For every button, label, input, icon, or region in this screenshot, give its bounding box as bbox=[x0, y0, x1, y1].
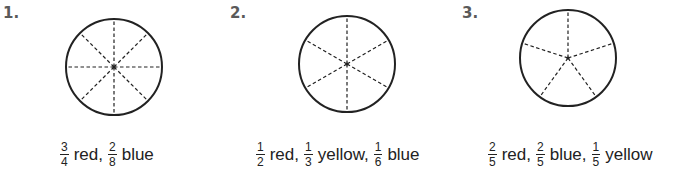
color-word: red, bbox=[74, 145, 103, 165]
fraction: 1 5 bbox=[592, 141, 601, 168]
center-dot bbox=[345, 62, 348, 65]
color-word: blue, bbox=[550, 145, 587, 165]
dashed-spoke bbox=[568, 43, 614, 58]
numerator: 3 bbox=[60, 141, 69, 155]
dashed-spoke bbox=[114, 33, 148, 67]
problem-2-circle bbox=[297, 14, 397, 114]
center-dot bbox=[566, 56, 569, 59]
problem-3-caption: 2 5 red, 2 5 blue, 1 5 yellow bbox=[488, 138, 657, 171]
dashed-spoke bbox=[568, 58, 596, 97]
denominator: 5 bbox=[489, 155, 496, 168]
fraction: 1 2 bbox=[256, 141, 265, 168]
color-word: yellow bbox=[605, 145, 652, 165]
numerator: 2 bbox=[488, 141, 497, 155]
color-word: yellow, bbox=[318, 145, 369, 165]
dashed-spoke bbox=[305, 40, 347, 64]
denominator: 2 bbox=[257, 155, 264, 168]
problem-1-caption: 3 4 red, 2 8 blue bbox=[60, 138, 159, 171]
numerator: 1 bbox=[256, 141, 265, 155]
fraction: 1 3 bbox=[304, 141, 313, 168]
fraction-term: 2 8 blue bbox=[108, 141, 159, 168]
fraction: 1 6 bbox=[374, 141, 383, 168]
dashed-spoke bbox=[114, 67, 148, 101]
denominator: 8 bbox=[109, 155, 116, 168]
fraction: 2 8 bbox=[108, 141, 117, 168]
problem-2-caption: 1 2 red, 1 3 yellow, 1 6 blue bbox=[256, 138, 425, 171]
fraction-term: 1 2 red, bbox=[256, 141, 304, 168]
denominator: 5 bbox=[593, 155, 600, 168]
problem-3-number: 3. bbox=[462, 4, 478, 22]
numerator: 1 bbox=[374, 141, 383, 155]
dashed-spoke bbox=[347, 40, 389, 64]
numerator: 2 bbox=[108, 141, 117, 155]
denominator: 6 bbox=[375, 155, 382, 168]
problem-3-circle bbox=[518, 8, 618, 108]
dashed-spoke bbox=[522, 43, 568, 58]
problem-1-number: 1. bbox=[3, 4, 19, 22]
denominator: 4 bbox=[61, 155, 68, 168]
color-word: blue bbox=[387, 145, 419, 165]
dashed-spoke bbox=[305, 64, 347, 88]
color-word: blue bbox=[122, 145, 154, 165]
numerator: 1 bbox=[592, 141, 601, 155]
dashed-spoke bbox=[80, 33, 114, 67]
dashed-spoke bbox=[347, 64, 389, 88]
fraction-term: 2 5 red, bbox=[488, 141, 536, 168]
dashed-spoke bbox=[540, 58, 568, 97]
problem-1-circle bbox=[64, 17, 164, 117]
fraction-term: 2 5 blue, bbox=[536, 141, 592, 168]
fraction-term: 1 5 yellow bbox=[592, 141, 658, 168]
numerator: 1 bbox=[304, 141, 313, 155]
denominator: 3 bbox=[305, 155, 312, 168]
color-word: red, bbox=[270, 145, 299, 165]
fraction-term: 1 6 blue bbox=[374, 141, 425, 168]
problem-2-number: 2. bbox=[230, 4, 246, 22]
denominator: 5 bbox=[537, 155, 544, 168]
center-dot bbox=[112, 65, 115, 68]
fraction: 3 4 bbox=[60, 141, 69, 168]
fraction-term: 1 3 yellow, bbox=[304, 141, 374, 168]
color-word: red, bbox=[502, 145, 531, 165]
dashed-spoke bbox=[80, 67, 114, 101]
fraction: 2 5 bbox=[488, 141, 497, 168]
fraction-term: 3 4 red, bbox=[60, 141, 108, 168]
numerator: 2 bbox=[536, 141, 545, 155]
fraction: 2 5 bbox=[536, 141, 545, 168]
